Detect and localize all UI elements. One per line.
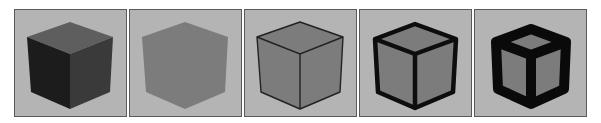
thin-outline-cube-icon (245, 10, 356, 116)
panel-shaded-cube (14, 9, 127, 117)
panel-very-thick-outline-cube (474, 9, 587, 117)
shaded-cube-icon (15, 10, 126, 116)
flat-cube-icon (130, 10, 241, 116)
panel-thin-outline-cube (244, 9, 357, 117)
very-thick-outline-cube-icon (475, 10, 586, 116)
panel-thick-outline-cube (359, 9, 472, 117)
panel-flat-cube (129, 9, 242, 117)
cube-comparison-strip (14, 9, 587, 117)
thick-outline-cube-icon (360, 10, 471, 116)
